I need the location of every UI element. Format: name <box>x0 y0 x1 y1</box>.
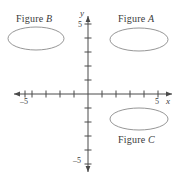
coordinate-plane-figure: Figure B Figure A Figure C y x 5 –5 –5 5 <box>0 0 179 181</box>
label-figure-c-prefix: Figure <box>118 134 145 145</box>
label-figure-b-prefix: Figure <box>16 13 43 24</box>
x-tick-label-5: 5 <box>155 97 159 106</box>
label-figure-a-prefix: Figure <box>118 13 145 24</box>
ellipse-figure-b <box>8 27 64 50</box>
y-tick-label-minus-5: –5 <box>73 156 81 165</box>
x-axis <box>14 92 172 97</box>
label-figure-a: Figure A <box>118 13 154 24</box>
label-figure-c-letter: C <box>148 134 155 145</box>
ellipse-figure-a <box>110 28 168 51</box>
x-tick-label-minus-5: –5 <box>20 97 28 106</box>
ellipse-figure-c <box>110 108 168 130</box>
y-axis-label: y <box>80 8 84 18</box>
label-figure-a-letter: A <box>148 13 154 24</box>
x-axis-label: x <box>166 96 170 106</box>
axes-and-ellipses-svg <box>0 0 179 181</box>
label-figure-b: Figure B <box>16 13 52 24</box>
label-figure-c: Figure C <box>118 134 155 145</box>
y-tick-label-5: 5 <box>78 20 82 29</box>
label-figure-b-letter: B <box>46 13 52 24</box>
